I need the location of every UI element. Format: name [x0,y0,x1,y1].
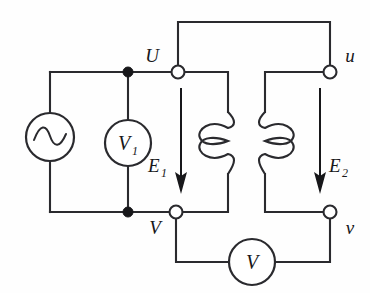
label-voltmeter-primary-subscript: 1 [132,144,138,158]
label-emf-primary-subscript: 1 [161,166,167,180]
label-emf-primary: E [147,155,160,176]
junction-dot-top [123,67,133,77]
circuit-schematic-svg: U V u v E 1 E 2 V 1 V [0,0,370,293]
label-terminal-v-lower: v [346,217,355,238]
label-terminal-V: V [149,217,163,238]
circuit-diagram: U V u v E 1 E 2 V 1 V [0,0,370,293]
label-emf-secondary-subscript: 2 [342,166,348,180]
terminal-V[interactable] [170,206,183,219]
coil-secondary [259,112,294,174]
wire-voltmeter-right-lead [275,212,330,262]
terminal-u[interactable] [324,66,337,79]
junction-dot-bottom [123,207,133,217]
wire-primary-top [178,72,228,112]
label-emf-secondary: E [328,155,341,176]
coil-primary [199,112,234,174]
terminal-U[interactable] [172,66,185,79]
label-terminal-u-lower: u [345,45,355,66]
wire-outer-top-loop [178,22,330,72]
label-terminal-U: U [145,45,160,66]
wire-voltmeter-left-lead [176,212,229,262]
terminal-v[interactable] [324,206,337,219]
